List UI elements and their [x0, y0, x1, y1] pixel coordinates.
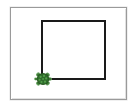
drawn-square-path [42, 21, 105, 79]
turtle-leg-front-left [45, 81, 51, 86]
turtle-tail-inner [35, 78, 38, 80]
turtle-graphics-screen [0, 0, 138, 111]
turtle-drawing-canvas [0, 0, 138, 111]
turtle-leg-rear-right [35, 72, 41, 77]
turtle-leg-rear-left [35, 81, 41, 86]
turtle-leg-rear-right-inner [36, 73, 40, 77]
turtle-tail [34, 78, 38, 81]
turtle-leg-front-left-inner [45, 81, 49, 85]
turtle-leg-front-right [45, 72, 51, 77]
turtle-leg-front-right-inner [45, 73, 49, 77]
turtle-leg-rear-left-inner [36, 81, 40, 85]
